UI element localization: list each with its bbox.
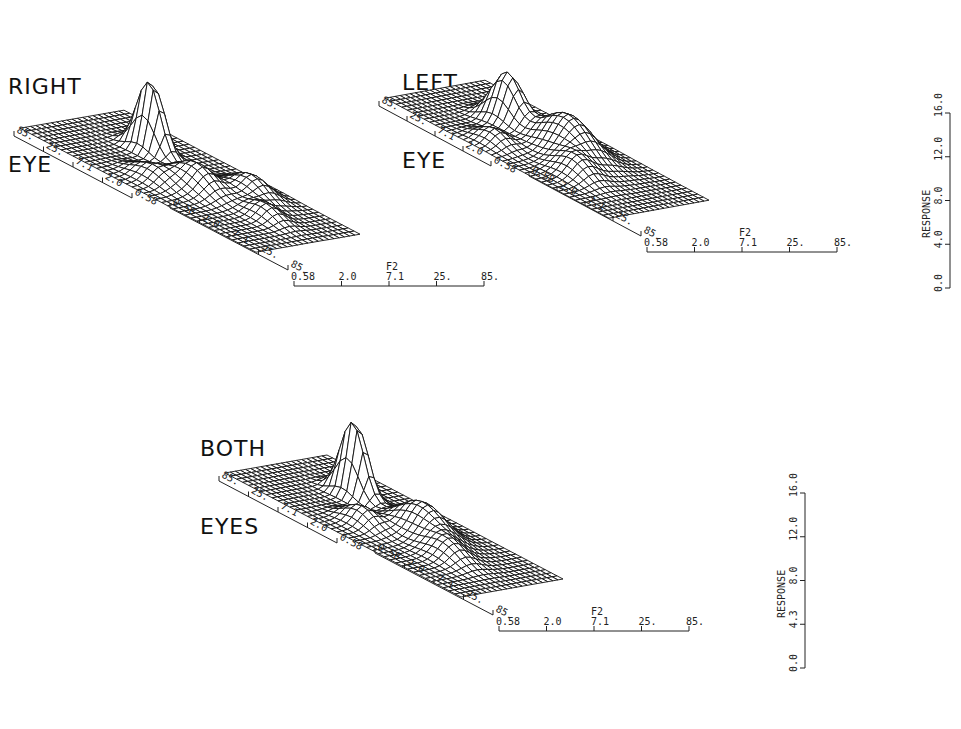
svg-text:85.: 85. — [481, 271, 499, 282]
svg-text:2.0: 2.0 — [692, 237, 710, 248]
svg-text:0.0: 0.0 — [788, 654, 799, 672]
svg-text:2.0: 2.0 — [339, 271, 357, 282]
svg-text:25.: 25. — [787, 237, 805, 248]
svg-text:85.: 85. — [834, 237, 852, 248]
axis-f2-left: 0.582.07.125.85.F2 — [644, 227, 852, 252]
surface-both — [225, 422, 563, 597]
svg-text:12.0: 12.0 — [933, 137, 944, 161]
svg-text:0.58: 0.58 — [644, 237, 668, 248]
svg-text:12.0: 12.0 — [788, 517, 799, 541]
svg-text:RESPONSE: RESPONSE — [776, 570, 787, 618]
svg-text:F2: F2 — [591, 606, 603, 617]
surface-plots: 85.25.7.12.00.580.582.07.125.85.0.582.07… — [0, 0, 961, 729]
svg-text:25.: 25. — [639, 616, 657, 627]
svg-text:0.0: 0.0 — [933, 274, 944, 292]
svg-text:16.0: 16.0 — [933, 93, 944, 117]
axis-f2-right: 0.582.07.125.85.F2 — [291, 261, 499, 286]
surface-right — [20, 82, 360, 252]
svg-text:7.1: 7.1 — [739, 237, 757, 248]
svg-text:8.0: 8.0 — [788, 566, 799, 584]
svg-text:85.: 85. — [686, 616, 704, 627]
svg-text:2.0: 2.0 — [544, 616, 562, 627]
svg-text:16.0: 16.0 — [788, 473, 799, 497]
svg-text:4.3: 4.3 — [788, 610, 799, 628]
svg-text:0.58: 0.58 — [291, 271, 315, 282]
surface-left — [385, 72, 709, 218]
svg-text:F2: F2 — [386, 261, 398, 272]
axis-response-left: 0.04.08.012.016.0RESPONSE — [921, 93, 950, 292]
axis-response-both: 0.04.38.012.016.0RESPONSE — [776, 473, 805, 672]
svg-text:7.1: 7.1 — [591, 616, 609, 627]
svg-text:4.0: 4.0 — [933, 230, 944, 248]
svg-text:7.1: 7.1 — [386, 271, 404, 282]
svg-text:8.0: 8.0 — [933, 186, 944, 204]
svg-text:0.58: 0.58 — [496, 616, 520, 627]
axis-f2-both: 0.582.07.125.85.F2 — [496, 606, 704, 631]
svg-text:F2: F2 — [739, 227, 751, 238]
svg-text:RESPONSE: RESPONSE — [921, 190, 932, 238]
svg-text:25.: 25. — [434, 271, 452, 282]
